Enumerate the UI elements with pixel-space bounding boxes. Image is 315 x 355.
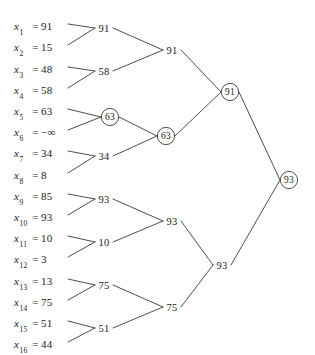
leaf-label: x9=85 (14, 190, 52, 205)
tree-edge (119, 117, 157, 136)
circled-node-value: 63 (161, 131, 171, 141)
leaf-value: 51 (41, 317, 52, 329)
node-value: 75 (99, 280, 110, 291)
leaf-equals-sign: = (30, 253, 41, 265)
leaf-variable-subscript: 10 (20, 219, 28, 228)
tree-edge (113, 50, 163, 71)
tree-edge (175, 92, 221, 136)
leaf-variable-name: x12 (14, 253, 30, 268)
leaf-equals-sign: = (30, 105, 41, 117)
leaf-value: 85 (41, 190, 52, 202)
leaf-label: x8=8 (14, 169, 47, 184)
circled-node-value: 91 (225, 87, 235, 97)
leaf-variable-name: x8 (14, 169, 30, 184)
leaf-variable-subscript: 12 (20, 261, 28, 270)
leaf-variable-name: x15 (14, 317, 30, 332)
leaf-variable-subscript: 13 (20, 283, 28, 292)
leaf-value: 34 (41, 147, 52, 159)
leaf-variable-name: x14 (14, 296, 30, 311)
leaf-equals-sign: = (30, 84, 41, 96)
circled-node-value: 93 (284, 175, 294, 185)
leaf-value: 63 (41, 105, 52, 117)
leaf-value: 58 (41, 84, 52, 96)
leaf-label: x11=10 (14, 232, 52, 247)
leaf-label: x6=−∞ (14, 126, 55, 141)
leaf-label: x5=63 (14, 105, 52, 120)
tree-edge (113, 307, 163, 328)
leaf-variable-name: x9 (14, 190, 30, 205)
leaf-value: 48 (41, 63, 52, 75)
node-value: 93 (99, 194, 110, 205)
node-value: 34 (99, 151, 110, 162)
leaf-variable-name: x6 (14, 126, 30, 141)
leaf-label: x16=44 (14, 338, 52, 353)
leaf-value: 93 (41, 211, 52, 223)
leaf-variable-name: x7 (14, 147, 30, 162)
tree-edge (181, 265, 213, 307)
leaf-equals-sign: = (30, 338, 41, 350)
leaf-equals-sign: = (30, 296, 41, 308)
tree-edge (68, 24, 95, 28)
leaf-variable-subscript: 11 (20, 240, 28, 249)
leaf-variable-subscript: 16 (20, 346, 28, 355)
tree-edge (68, 199, 95, 215)
tree-edge (68, 117, 101, 130)
leaf-value: 8 (41, 169, 47, 181)
tree-edge (113, 285, 163, 307)
tree-edge (68, 242, 95, 257)
leaf-equals-sign: = (30, 232, 41, 244)
tree-edge (68, 328, 95, 342)
leaf-variable-subscript: 1 (20, 28, 24, 37)
leaf-variable-name: x3 (14, 63, 30, 78)
leaf-variable-name: x10 (14, 211, 30, 226)
tree-edge (113, 136, 157, 156)
tree-edge (68, 151, 95, 156)
leaf-equals-sign: = (30, 317, 41, 329)
leaf-label: x3=48 (14, 63, 52, 78)
leaf-equals-sign: = (30, 190, 41, 202)
tree-edge (68, 28, 95, 45)
leaf-value: 3 (41, 253, 47, 265)
leaf-value: 91 (41, 20, 52, 32)
leaf-label: x7=34 (14, 147, 52, 162)
leaf-variable-subscript: 6 (20, 134, 24, 143)
tree-edge (68, 71, 95, 88)
circled-node-value: 63 (105, 112, 115, 122)
leaf-value: 15 (41, 41, 52, 53)
leaf-variable-subscript: 8 (20, 177, 24, 186)
node-value: 75 (167, 302, 178, 313)
leaf-variable-name: x16 (14, 338, 30, 353)
tree-edge (68, 285, 95, 300)
leaf-value: 75 (41, 296, 52, 308)
tree-edge (181, 50, 221, 92)
leaf-value: −∞ (41, 126, 55, 138)
leaf-label: x2=15 (14, 41, 52, 56)
node-value: 91 (167, 45, 178, 56)
leaf-label: x4=58 (14, 84, 52, 99)
tree-edge (68, 279, 95, 285)
leaf-variable-subscript: 9 (20, 198, 24, 207)
tree-edge (68, 194, 95, 199)
leaf-variable-name: x5 (14, 105, 30, 120)
node-value: 93 (167, 216, 178, 227)
node-value: 51 (99, 323, 110, 334)
tree-edge (68, 156, 95, 173)
leaf-variable-name: x1 (14, 20, 30, 35)
node-value: 93 (217, 260, 228, 271)
tree-edge (239, 92, 280, 180)
leaf-value: 13 (41, 275, 52, 287)
tree-edge (113, 28, 163, 50)
leaf-variable-name: x13 (14, 275, 30, 290)
leaf-variable-subscript: 7 (20, 155, 24, 164)
node-value: 10 (99, 237, 110, 248)
leaf-variable-subscript: 15 (20, 325, 28, 334)
leaf-variable-subscript: 5 (20, 113, 24, 122)
leaf-variable-subscript: 4 (20, 92, 24, 101)
tree-edge (68, 236, 95, 242)
leaf-equals-sign: = (30, 126, 41, 138)
tree-edge (113, 199, 163, 221)
leaf-equals-sign: = (30, 147, 41, 159)
leaf-label: x15=51 (14, 317, 52, 332)
tree-edge (231, 180, 280, 265)
leaf-variable-name: x4 (14, 84, 30, 99)
